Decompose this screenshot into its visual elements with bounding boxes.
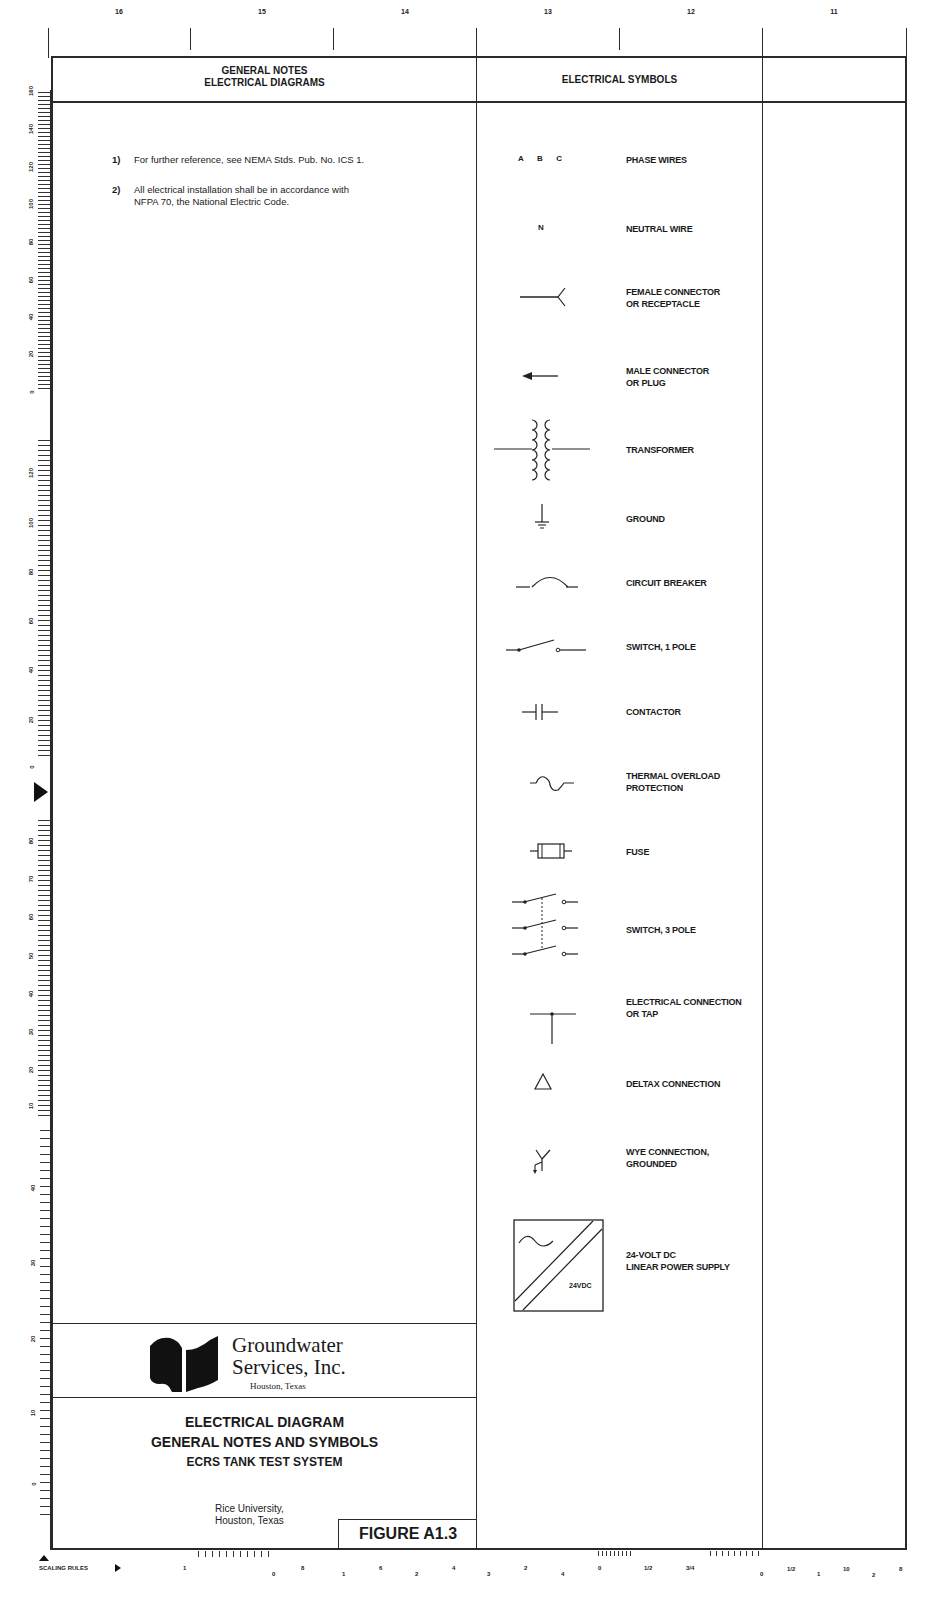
wye-grounded-icon bbox=[530, 1147, 554, 1175]
symbol-label: PHASE WIRES bbox=[626, 154, 687, 166]
symbol-label: TRANSFORMER bbox=[626, 444, 694, 456]
note-text: All electrical installation shall be in … bbox=[134, 184, 349, 195]
notes-header: GENERAL NOTES ELECTRICAL DIAGRAMS bbox=[53, 65, 476, 89]
note-2: 2)All electrical installation shall be i… bbox=[112, 184, 349, 208]
symbol-label: THERMAL OVERLOADPROTECTION bbox=[626, 770, 720, 794]
delta-connection-icon bbox=[533, 1072, 553, 1092]
zone-16: 16 bbox=[99, 8, 139, 15]
project-name: ECRS TANK TEST SYSTEM bbox=[53, 1452, 476, 1472]
scaling-rules-label: SCALING RULES bbox=[39, 1565, 88, 1571]
symbol-label: GROUND bbox=[626, 513, 665, 525]
drawing-title: ELECTRICAL DIAGRAM bbox=[53, 1412, 476, 1432]
scaling-arrow-up-icon bbox=[38, 1554, 50, 1562]
zone-13: 13 bbox=[528, 8, 568, 15]
transformer-icon bbox=[492, 416, 592, 484]
symbol-label: ELECTRICAL CONNECTIONOR TAP bbox=[626, 996, 742, 1020]
ground-icon bbox=[532, 502, 552, 532]
thermal-overload-icon bbox=[528, 772, 578, 794]
note-text: For further reference, see NEMA Stds. Pu… bbox=[134, 154, 364, 165]
note-text: NFPA 70, the National Electric Code. bbox=[112, 196, 349, 208]
notes-header-line1: GENERAL NOTES bbox=[53, 65, 476, 77]
zone-15: 15 bbox=[242, 8, 282, 15]
switch-3-pole-icon bbox=[510, 890, 590, 960]
contactor-icon bbox=[520, 702, 562, 722]
figure-number: FIGURE A1.3 bbox=[339, 1525, 477, 1543]
zone-12: 12 bbox=[671, 8, 711, 15]
circuit-breaker-icon bbox=[514, 570, 580, 592]
symbol-label: NEUTRAL WIRE bbox=[626, 223, 692, 235]
company-name: Groundwater Services, Inc. bbox=[232, 1334, 346, 1378]
female-connector-icon bbox=[518, 282, 568, 312]
symbol-label: SWITCH, 3 POLE bbox=[626, 924, 696, 936]
note-number: 1) bbox=[112, 154, 134, 166]
power-supply-icon: 24VDC bbox=[513, 1219, 603, 1311]
title-block: ELECTRICAL DIAGRAM GENERAL NOTES AND SYM… bbox=[53, 1412, 476, 1472]
symbol-label: CIRCUIT BREAKER bbox=[626, 577, 707, 589]
symbol-label: FEMALE CONNECTOROR RECEPTACLE bbox=[626, 286, 720, 310]
zone-11: 11 bbox=[814, 8, 854, 15]
symbol-label: 24-VOLT DCLINEAR POWER SUPPLY bbox=[626, 1249, 730, 1273]
symbols-header: ELECTRICAL SYMBOLS bbox=[477, 74, 762, 86]
electrical-tap-icon bbox=[528, 1010, 578, 1046]
note-number: 2) bbox=[112, 184, 134, 196]
company-logo-icon bbox=[148, 1334, 220, 1394]
symbol-label: WYE CONNECTION,GROUNDED bbox=[626, 1146, 709, 1170]
phase-wires-icon: A B C bbox=[518, 154, 565, 163]
fuse-icon bbox=[528, 840, 574, 862]
note-1: 1)For further reference, see NEMA Stds. … bbox=[112, 154, 364, 166]
male-connector-icon bbox=[518, 366, 568, 386]
symbol-label: CONTACTOR bbox=[626, 706, 681, 718]
neutral-wire-icon: N bbox=[538, 223, 544, 232]
ruler-marker-icon bbox=[32, 780, 50, 804]
notes-header-line2: ELECTRICAL DIAGRAMS bbox=[53, 77, 476, 89]
symbol-label: FUSE bbox=[626, 846, 649, 858]
drawing-subtitle: GENERAL NOTES AND SYMBOLS bbox=[53, 1432, 476, 1452]
company-location: Houston, Texas bbox=[250, 1381, 306, 1391]
switch-1-pole-icon bbox=[504, 636, 588, 656]
symbol-label: SWITCH, 1 POLE bbox=[626, 641, 696, 653]
zone-14: 14 bbox=[385, 8, 425, 15]
symbol-label: MALE CONNECTOROR PLUG bbox=[626, 365, 709, 389]
symbol-label: DELTAX CONNECTION bbox=[626, 1078, 720, 1090]
client-info: Rice University, Houston, Texas bbox=[215, 1503, 284, 1527]
scaling-arrow-right-icon bbox=[114, 1563, 122, 1573]
power-supply-rating: 24VDC bbox=[569, 1282, 592, 1289]
